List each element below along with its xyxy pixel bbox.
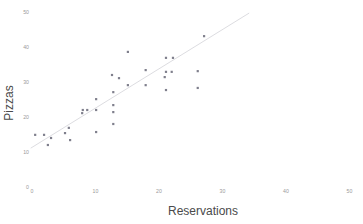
y-tick-label: 10 (23, 149, 29, 155)
data-point (127, 51, 129, 53)
data-point (34, 134, 36, 136)
y-tick-label: 30 (23, 79, 29, 85)
x-tick-label: 0 (31, 188, 34, 194)
scatter-plot-figure: 01020304050 01020304050 Reservations Piz… (0, 0, 363, 224)
data-point (203, 35, 205, 37)
data-point (82, 109, 84, 111)
x-tick-label: 50 (347, 188, 353, 194)
data-point (164, 76, 166, 78)
data-point (165, 89, 167, 91)
data-point (50, 137, 52, 139)
data-point (145, 84, 147, 86)
data-point (112, 111, 114, 113)
data-point (95, 109, 97, 111)
data-point (47, 144, 49, 146)
y-tick-label: 20 (23, 114, 29, 120)
data-point (165, 57, 167, 59)
data-point (68, 127, 70, 129)
data-point (95, 98, 97, 100)
data-point (69, 139, 71, 141)
y-tick-label: 50 (23, 9, 29, 15)
data-point (165, 71, 167, 73)
x-tick-label: 10 (93, 188, 99, 194)
data-point (112, 104, 114, 106)
x-axis-title: Reservations (168, 204, 238, 218)
x-tick-label: 40 (283, 188, 289, 194)
chart-canvas: 01020304050 01020304050 Reservations Piz… (0, 0, 363, 224)
x-tick-label: 30 (220, 188, 226, 194)
plot-background (0, 0, 363, 224)
data-point (145, 69, 147, 71)
data-point (111, 74, 113, 76)
x-tick-label: 20 (156, 188, 162, 194)
data-point (43, 134, 45, 136)
data-point (127, 84, 129, 86)
data-point (64, 132, 66, 134)
y-axis-title: Pizzas (2, 85, 16, 120)
data-point (171, 71, 173, 73)
data-point (172, 57, 174, 59)
data-point (86, 109, 88, 111)
data-point (95, 131, 97, 133)
y-tick-label: 40 (23, 44, 29, 50)
data-point (112, 123, 114, 125)
data-point (197, 70, 199, 72)
data-point (81, 112, 83, 114)
data-point (118, 77, 120, 79)
data-point (112, 91, 114, 93)
data-point (197, 87, 199, 89)
y-tick-label: 0 (26, 184, 29, 190)
